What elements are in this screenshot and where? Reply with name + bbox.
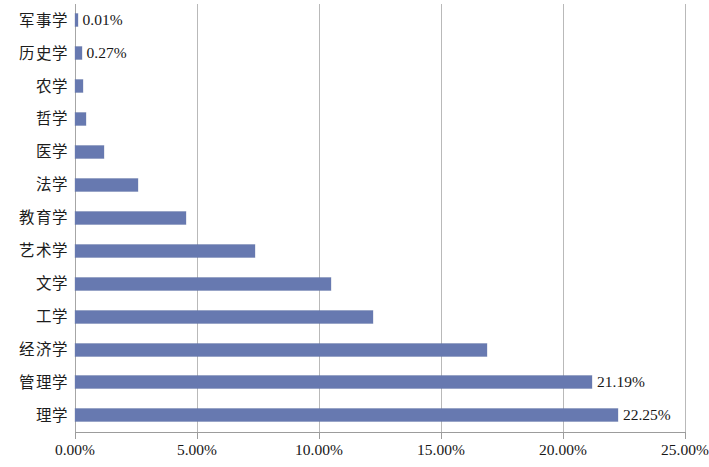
bar-track — [75, 103, 704, 136]
category-label: 工学 — [0, 300, 68, 333]
bar — [75, 277, 331, 290]
bar-row: 哲学 — [0, 103, 704, 136]
category-label: 历史学 — [0, 37, 68, 70]
bar-row: 军事学0.01% — [0, 4, 704, 37]
bar — [75, 47, 82, 60]
x-axis-tick — [197, 432, 198, 439]
bar-row: 教育学 — [0, 201, 704, 234]
bar-value-label: 0.01% — [78, 13, 123, 29]
x-axis-tick-label: 0.00% — [55, 442, 95, 458]
category-label: 医学 — [0, 136, 68, 169]
x-axis-tick-label: 15.00% — [417, 442, 465, 458]
bar — [75, 343, 487, 356]
category-label: 教育学 — [0, 201, 68, 234]
category-label: 军事学 — [0, 4, 68, 37]
bar — [75, 409, 618, 422]
bar-track: 22.25% — [75, 399, 704, 432]
bar-track — [75, 136, 704, 169]
bar — [75, 146, 104, 159]
bar-row: 管理学21.19% — [0, 366, 704, 399]
bar-track — [75, 70, 704, 103]
x-axis-tick — [441, 432, 442, 439]
bar-row: 经济学 — [0, 333, 704, 366]
bar — [75, 376, 592, 389]
category-label: 法学 — [0, 169, 68, 202]
x-axis-line — [75, 432, 686, 433]
bar-track — [75, 169, 704, 202]
x-axis-tick — [685, 432, 686, 439]
x-axis-tick — [563, 432, 564, 439]
x-axis-tick-label: 20.00% — [539, 442, 587, 458]
bar-row: 理学22.25% — [0, 399, 704, 432]
bar — [75, 80, 83, 93]
bar-track: 0.27% — [75, 37, 704, 70]
bar-track — [75, 234, 704, 267]
bar-track — [75, 333, 704, 366]
bar-track — [75, 300, 704, 333]
bar-row: 法学 — [0, 169, 704, 202]
x-axis: 0.00%5.00%10.00%15.00%20.00%25.00% — [0, 432, 704, 467]
bar — [75, 310, 373, 323]
bar — [75, 244, 255, 257]
category-label: 文学 — [0, 267, 68, 300]
category-label: 艺术学 — [0, 234, 68, 267]
bar-track: 0.01% — [75, 4, 704, 37]
category-label: 经济学 — [0, 333, 68, 366]
bar-row: 工学 — [0, 300, 704, 333]
bar — [75, 178, 138, 191]
category-label: 管理学 — [0, 366, 68, 399]
bar-value-label: 22.25% — [618, 408, 671, 424]
bar-track — [75, 267, 704, 300]
x-axis-tick-label: 10.00% — [295, 442, 343, 458]
bar-track: 21.19% — [75, 366, 704, 399]
bar — [75, 211, 186, 224]
category-label: 哲学 — [0, 103, 68, 136]
category-label: 农学 — [0, 70, 68, 103]
bar-row: 文学 — [0, 267, 704, 300]
x-axis-tick-label: 5.00% — [177, 442, 217, 458]
x-axis-tick-label: 25.00% — [661, 442, 709, 458]
category-label: 理学 — [0, 399, 68, 432]
bar-value-label: 21.19% — [592, 375, 645, 391]
x-axis-tick — [75, 432, 76, 439]
bar-rows: 军事学0.01%历史学0.27%农学哲学医学法学教育学艺术学文学工学经济学管理学… — [0, 4, 704, 432]
x-axis-tick — [319, 432, 320, 439]
bar — [75, 113, 86, 126]
bar-row: 艺术学 — [0, 234, 704, 267]
bar-value-label: 0.27% — [82, 46, 127, 62]
bar-track — [75, 201, 704, 234]
bar-row: 医学 — [0, 136, 704, 169]
bar-row: 农学 — [0, 70, 704, 103]
bar-row: 历史学0.27% — [0, 37, 704, 70]
